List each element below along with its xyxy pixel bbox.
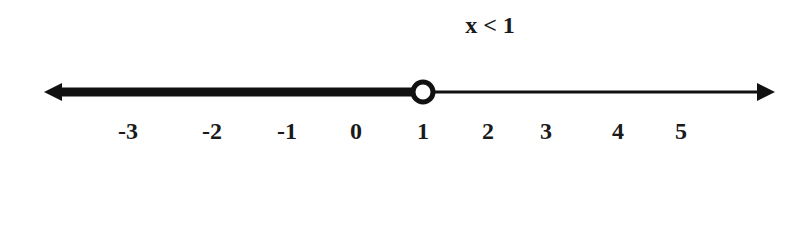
tick-label: -2	[192, 118, 232, 145]
tick-label: 0	[336, 118, 376, 145]
tick-label: -3	[108, 118, 148, 145]
right-arrow-icon	[757, 83, 775, 101]
open-circle-boundary	[413, 82, 433, 102]
tick-label: 4	[598, 118, 638, 145]
tick-label: 2	[468, 118, 508, 145]
tick-label: 1	[403, 118, 443, 145]
left-arrow-icon	[44, 83, 62, 101]
tick-label: 3	[526, 118, 566, 145]
tick-label: -1	[267, 118, 307, 145]
tick-label: 5	[661, 118, 701, 145]
